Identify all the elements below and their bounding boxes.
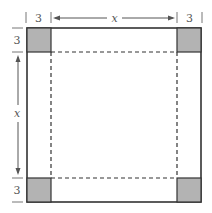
square-cutout-diagram: 3 x 3 3 x 3 <box>0 0 212 213</box>
label-top-x: x <box>111 12 118 25</box>
label-top-left-3: 3 <box>35 12 42 25</box>
label-top-right-3: 3 <box>186 12 193 25</box>
label-left-top-3: 3 <box>14 34 21 47</box>
corner-square-top-right <box>177 28 201 52</box>
fold-lines <box>51 52 177 178</box>
outer-square <box>27 28 201 202</box>
label-left-x: x <box>14 107 21 120</box>
corner-square-bottom-right <box>177 178 201 202</box>
label-left-bottom-3: 3 <box>14 184 21 197</box>
corner-square-top-left <box>27 28 51 52</box>
corner-square-bottom-left <box>27 178 51 202</box>
